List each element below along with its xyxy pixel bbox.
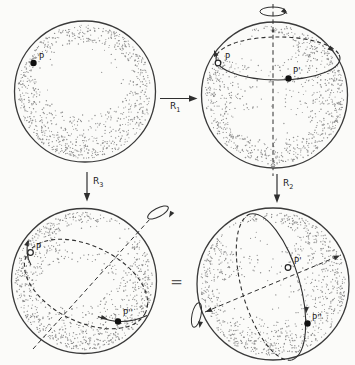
r2-subscript: 2 xyxy=(289,183,293,191)
sphere-top-left: P xyxy=(15,21,156,162)
r2-arrow-label: R2 xyxy=(283,178,293,191)
r3-arrow-label: R3 xyxy=(93,176,103,189)
r1-arrowhead-icon xyxy=(189,95,198,101)
point-p-prime-label: P' xyxy=(293,66,300,76)
sphere-top-right: P P' xyxy=(202,4,348,176)
figure-canvas: P P P' P xyxy=(0,0,355,365)
point-p-double-prime-label: P'' xyxy=(123,308,133,318)
r2-arrow: R2 xyxy=(274,174,294,203)
pole-dot xyxy=(272,30,275,33)
point-p-double-prime-label: P'' xyxy=(312,313,322,323)
sphere-bottom-right: P' P'' xyxy=(189,208,349,360)
r3-subscript: 3 xyxy=(99,181,103,189)
rotation-arrow-icon xyxy=(146,203,170,221)
point-p-marker xyxy=(28,250,34,256)
sphere-outline xyxy=(202,22,348,168)
r1-arrow-label: R1 xyxy=(170,101,180,114)
equals-sign: = xyxy=(170,273,183,291)
stipple-dots xyxy=(205,26,344,165)
stipple-dots xyxy=(15,212,153,351)
r1-subscript: 1 xyxy=(176,106,180,114)
axis-arrowhead-icon xyxy=(205,307,213,314)
point-p-label: P xyxy=(39,52,44,62)
rotation-arrowhead-icon xyxy=(167,211,174,219)
stipple-dots xyxy=(18,25,151,159)
point-p-double-prime-marker xyxy=(304,320,310,326)
direction-arrowhead-icon xyxy=(24,239,31,247)
point-p-marker xyxy=(215,60,221,66)
r1-arrow: R1 xyxy=(160,95,198,113)
r2-arrowhead-icon xyxy=(274,195,280,204)
sphere-bottom-left: P P'' xyxy=(10,203,174,353)
stipple-dots xyxy=(201,213,346,356)
point-p-prime-marker xyxy=(285,265,291,271)
point-p-marker xyxy=(30,60,36,66)
latitude-circle-back xyxy=(217,37,339,55)
point-p-prime-marker xyxy=(285,75,291,81)
point-p-double-prime-marker xyxy=(115,318,121,324)
rotation-composition-figure: P P P' P xyxy=(0,0,355,365)
point-p-label: P xyxy=(225,52,230,62)
sphere-outline xyxy=(15,21,156,162)
point-p-prime-label: P' xyxy=(294,256,301,266)
latitude-circle-front xyxy=(216,55,340,80)
r3-arrow: R3 xyxy=(84,172,104,202)
rotation-axis xyxy=(205,255,341,312)
point-p-label: P xyxy=(36,242,41,252)
r3-arrowhead-icon xyxy=(84,193,90,202)
